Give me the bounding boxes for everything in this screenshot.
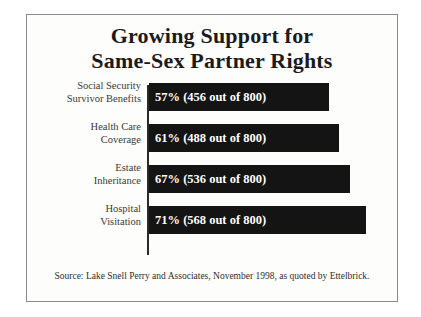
bar-label-line-1: Social Security [77,80,141,91]
bar-label-line-1: Hospital [105,203,141,214]
bar-label: Social Security Survivor Benefits [27,80,141,105]
bar-label-line-1: Estate [115,162,141,173]
bar: 67% (536 out of 800) [149,165,350,193]
bar-row: Health Care Coverage 61% (488 out of 800… [27,124,399,152]
bar-label-line-2: Inheritance [27,175,141,188]
bar-value-label: 67% (536 out of 800) [155,165,266,193]
chart-title-line-2: Same-Sex Partner Rights [27,48,397,73]
bar-value-label: 57% (456 out of 800) [155,83,266,111]
bar-label: Health Care Coverage [27,121,141,146]
bar-label-line-2: Survivor Benefits [27,93,141,106]
bar-label: Estate Inheritance [27,162,141,187]
bar: 71% (568 out of 800) [149,206,366,234]
bar: 57% (456 out of 800) [149,83,329,111]
bar-label-line-2: Visitation [27,216,141,229]
bar-row: Social Security Survivor Benefits 57% (4… [27,83,399,111]
chart-title-line-1: Growing Support for [27,23,397,48]
bar-label-line-2: Coverage [27,134,141,147]
bar-row: Hospital Visitation 71% (568 out of 800) [27,206,399,234]
bar-value-label: 61% (488 out of 800) [155,124,266,152]
bar-value-label: 71% (568 out of 800) [155,206,266,234]
chart-title: Growing Support for Same-Sex Partner Rig… [27,23,397,73]
bar-label: Hospital Visitation [27,203,141,228]
source-note: Source: Lake Snell Perry and Associates,… [27,271,397,281]
bar-chart-plot-area: Social Security Survivor Benefits 57% (4… [27,83,399,255]
chart-figure: Growing Support for Same-Sex Partner Rig… [26,14,398,302]
bar-row: Estate Inheritance 67% (536 out of 800) [27,165,399,193]
bar: 61% (488 out of 800) [149,124,339,152]
bar-label-line-1: Health Care [91,121,141,132]
